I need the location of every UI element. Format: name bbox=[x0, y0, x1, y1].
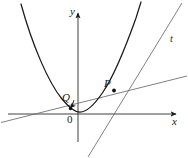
origin-label: 0 bbox=[67, 114, 73, 125]
secant-line bbox=[1, 76, 187, 123]
point-label-q: Q bbox=[62, 92, 70, 103]
point-label-p: P bbox=[104, 78, 111, 89]
tangent-line-label: t bbox=[170, 34, 173, 44]
math-figure: y x t P Q 0 bbox=[0, 0, 188, 158]
tangent-line-t bbox=[88, 3, 182, 157]
x-axis-label: x bbox=[172, 116, 177, 127]
y-axis-label: y bbox=[70, 6, 75, 17]
point-marker-Q bbox=[69, 107, 72, 110]
figure-canvas bbox=[0, 0, 188, 158]
point-marker-P bbox=[112, 89, 116, 93]
parabola-curve bbox=[21, 2, 141, 112]
